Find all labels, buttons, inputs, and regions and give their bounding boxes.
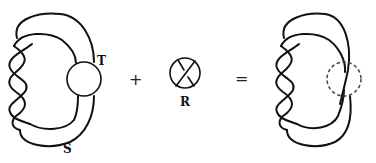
plus-operator: + bbox=[129, 70, 142, 89]
right-figure bbox=[276, 14, 361, 146]
equals-operator: = bbox=[235, 69, 248, 88]
strand-s-label: S bbox=[63, 142, 72, 156]
middle-figure: R bbox=[170, 58, 200, 109]
left-figure: T S bbox=[9, 14, 106, 156]
tangle-r-label: R bbox=[180, 95, 191, 109]
tangle-t-label: T bbox=[97, 54, 106, 68]
tangle-t-circle bbox=[67, 62, 101, 96]
tangle-equation-diagram: T S + R = bbox=[0, 0, 376, 163]
